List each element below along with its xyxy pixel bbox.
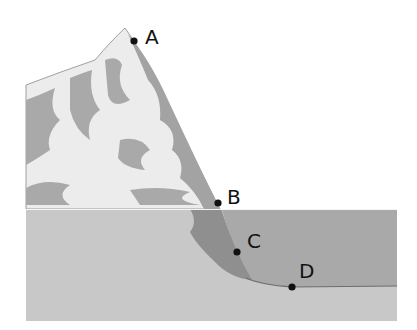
point-c-label: C	[247, 231, 261, 251]
point-a-marker	[130, 37, 137, 44]
point-c-marker	[233, 248, 240, 255]
point-a-label: A	[145, 27, 159, 47]
point-b-marker	[214, 199, 221, 206]
point-b-label: B	[227, 187, 241, 207]
mountain-water-diagram	[0, 0, 417, 330]
point-d-label: D	[299, 261, 314, 281]
point-d-marker	[288, 283, 295, 290]
